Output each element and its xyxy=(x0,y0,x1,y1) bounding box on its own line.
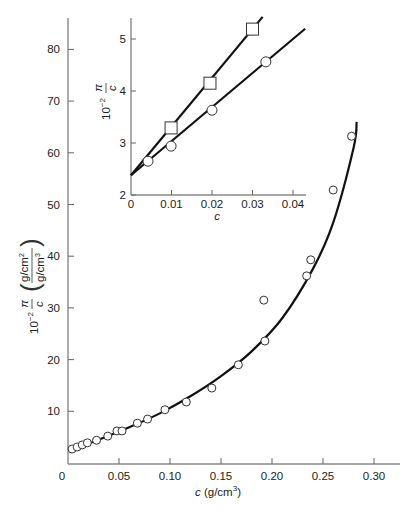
svg-text:g/cm3: g/cm3 xyxy=(34,253,46,282)
inset-x-tick-label: 0 xyxy=(128,198,134,210)
main-data-point xyxy=(118,427,126,435)
main-y-tick-label: 70 xyxy=(47,95,60,107)
main-data-point xyxy=(260,296,268,304)
main-y-tick-label: 80 xyxy=(47,43,60,55)
inset-y-axis-title: 10−2 π c xyxy=(92,83,118,120)
main-x-tick-label: 0.25 xyxy=(312,470,334,482)
main-data-point xyxy=(303,272,311,280)
main-y-tick-label: 20 xyxy=(47,354,60,366)
svg-text:10−2: 10−2 xyxy=(26,312,40,334)
inset-square-point xyxy=(165,122,177,134)
inset-x-tick-label: 0.04 xyxy=(282,198,305,210)
main-x-tick-label: 0.30 xyxy=(363,470,385,482)
inset-square-point xyxy=(247,23,259,35)
inset-square-point xyxy=(204,77,216,89)
inset-y-tick-label: 5 xyxy=(120,33,126,45)
main-data-point xyxy=(307,256,315,264)
inset-plot: 00.010.020.030.04 2345 c 10−2 π c xyxy=(92,17,306,222)
inset-circle-point xyxy=(143,156,153,166)
inset-circle-point xyxy=(261,57,271,67)
main-data-point xyxy=(133,419,141,427)
main-fit-curve xyxy=(72,122,357,450)
main-y-tick-label: 40 xyxy=(47,250,60,262)
main-data-point xyxy=(161,406,169,414)
main-y-tick-label: 30 xyxy=(47,302,60,314)
main-x-tick-label: 0.15 xyxy=(210,470,232,482)
main-y-tick-label: 50 xyxy=(47,199,60,211)
main-y-tick-label: 60 xyxy=(47,147,60,159)
main-data-point xyxy=(93,436,101,444)
main-data-point xyxy=(144,415,152,423)
main-plot: 00.050.100.150.200.250.30 10203040506070… xyxy=(15,18,400,498)
main-x-tick-label: 0 xyxy=(59,470,65,482)
svg-text:g/cm2: g/cm2 xyxy=(18,253,30,282)
main-x-tick-label: 0.05 xyxy=(108,470,130,482)
main-data-point xyxy=(234,361,242,369)
main-data-point xyxy=(104,432,112,440)
inset-x-tick-label: 0.02 xyxy=(201,198,223,210)
main-data-point xyxy=(329,186,337,194)
svg-text:(: ( xyxy=(15,283,45,292)
main-y-tick-label: 10 xyxy=(47,405,60,417)
inset-y-tick-label: 4 xyxy=(120,85,127,97)
inset-fit-line-squares xyxy=(131,17,263,175)
svg-text:c: c xyxy=(33,301,45,307)
main-x-tick-label: 0.20 xyxy=(261,470,283,482)
inset-y-tick-label: 2 xyxy=(120,189,126,201)
main-data-point xyxy=(261,337,269,345)
inset-circle-point xyxy=(166,141,176,151)
main-x-axis-title: c (g/cm3) xyxy=(195,484,241,498)
svg-text:10−2: 10−2 xyxy=(98,98,112,120)
main-x-tick-label: 0.10 xyxy=(159,470,181,482)
main-data-point xyxy=(83,439,91,447)
inset-x-tick-label: 0.03 xyxy=(241,198,263,210)
svg-text:): ) xyxy=(15,238,45,247)
svg-text:π: π xyxy=(92,84,104,92)
inset-fit-line-circles xyxy=(131,29,305,175)
main-data-point xyxy=(182,398,190,406)
chart: 00.050.100.150.200.250.30 10203040506070… xyxy=(0,0,416,511)
main-data-point xyxy=(348,132,356,140)
main-y-axis-title: 10−2 π c ( g/cm2 g/cm3 ) xyxy=(15,238,46,334)
svg-text:π: π xyxy=(18,300,30,308)
inset-y-tick-label: 3 xyxy=(120,137,126,149)
inset-x-tick-label: 0.01 xyxy=(160,198,182,210)
inset-circle-point xyxy=(207,105,217,115)
inset-x-axis-title: c xyxy=(214,210,220,222)
svg-text:c: c xyxy=(106,85,118,91)
main-data-point xyxy=(208,384,216,392)
